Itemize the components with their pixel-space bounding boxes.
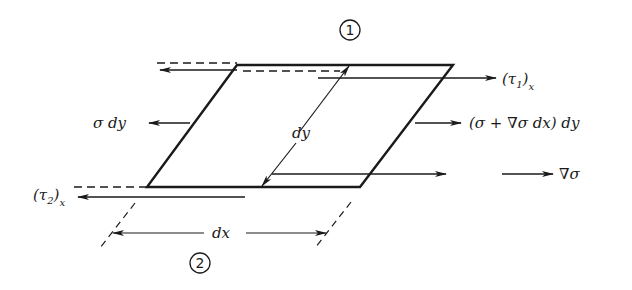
svg-text:(τ2)x: (τ2)x <box>33 186 65 208</box>
tau1-label: (τ1)x <box>502 70 534 92</box>
svg-text:(τ1)x: (τ1)x <box>502 70 534 92</box>
face-2-marker: 2 <box>190 253 210 273</box>
face-1-label: 1 <box>346 22 355 38</box>
face-1-marker: 1 <box>340 20 360 40</box>
dx-label: dx <box>212 224 231 242</box>
dy-label: dy <box>292 124 311 142</box>
face-2-label: 2 <box>196 255 205 271</box>
dx-extension-right <box>315 202 351 248</box>
grad-sigma-label: ∇σ <box>559 165 580 183</box>
tau2-label: (τ2)x <box>33 186 65 208</box>
stress-element-diagram: 1 (τ1)x σ dy (σ + ∇σ dx) dy dy ∇σ (τ2)x … <box>0 0 632 290</box>
sigma-plus-label: (σ + ∇σ dx) dy <box>469 114 580 132</box>
dy-dimension-upper <box>300 66 349 131</box>
dx-extension-left <box>100 203 135 248</box>
dy-dimension-lower <box>262 143 296 186</box>
sigma-dy-label: σ dy <box>93 114 127 132</box>
